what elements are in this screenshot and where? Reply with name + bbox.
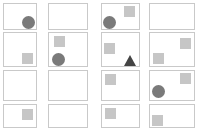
- square-shape: [124, 6, 135, 17]
- square-shape: [180, 38, 191, 49]
- card-r4c2[interactable]: [48, 104, 88, 128]
- circle-shape: [22, 16, 35, 29]
- circle-shape: [52, 53, 65, 66]
- card-r3c2[interactable]: [48, 70, 88, 101]
- square-shape: [105, 108, 116, 119]
- square-shape: [54, 36, 65, 47]
- card-r4c1[interactable]: [3, 104, 37, 128]
- card-r2c4[interactable]: [149, 32, 195, 67]
- square-shape: [105, 74, 116, 85]
- card-r4c3[interactable]: [101, 104, 140, 128]
- square-shape: [22, 109, 33, 120]
- card-r1c3[interactable]: [101, 3, 140, 30]
- card-r1c4[interactable]: [149, 3, 195, 30]
- card-r2c1[interactable]: [3, 32, 37, 67]
- square-shape: [180, 73, 191, 84]
- square-shape: [153, 53, 164, 64]
- card-r4c4[interactable]: [149, 104, 195, 128]
- card-r1c2[interactable]: [48, 3, 88, 30]
- card-r1c1[interactable]: [3, 3, 37, 30]
- square-shape: [152, 115, 163, 126]
- circle-shape: [103, 16, 116, 29]
- card-r2c3[interactable]: [101, 32, 140, 67]
- square-shape: [22, 53, 33, 64]
- square-shape: [104, 43, 115, 54]
- card-r3c4[interactable]: [149, 70, 195, 101]
- circle-shape: [152, 85, 165, 98]
- card-r3c1[interactable]: [3, 70, 37, 101]
- card-r2c2[interactable]: [48, 32, 88, 67]
- triangle-shape: [124, 55, 136, 66]
- card-r3c3[interactable]: [101, 70, 140, 101]
